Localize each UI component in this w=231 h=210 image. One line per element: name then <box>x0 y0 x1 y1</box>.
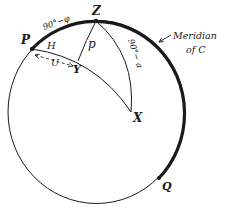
point-p-dot <box>30 47 34 51</box>
label-u: U <box>51 57 60 68</box>
point-q-dot <box>157 176 161 180</box>
label-y: Y <box>73 63 82 76</box>
label-q: Q <box>162 180 172 193</box>
label-x: X <box>132 111 143 125</box>
label-co-altitude: 90°− a <box>126 38 145 70</box>
arc-z-x <box>96 21 132 112</box>
label-of-c: of C <box>186 44 206 55</box>
label-meridian: Meridian <box>172 30 217 41</box>
point-z-dot <box>94 19 98 23</box>
label-colatitude: 90°−φ <box>41 13 71 32</box>
label-polar-distance: p <box>88 37 96 51</box>
label-p: P <box>20 33 31 47</box>
label-hour-angle: H <box>46 40 56 51</box>
spherical-triangle-diagram: Z P Y X Q 90°−φ p 90°− a H U Meridian of… <box>0 0 231 210</box>
meridian-pointer-arrow <box>159 35 171 42</box>
label-z: Z <box>91 4 102 18</box>
